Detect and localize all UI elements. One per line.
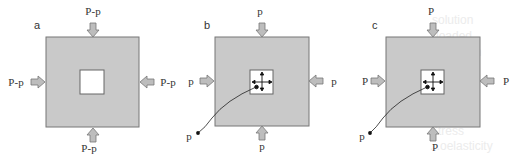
- left-load-label: P: [362, 75, 368, 87]
- lead-dot: [368, 131, 372, 135]
- top-load-label: P-p: [85, 5, 101, 17]
- panel-label: c: [372, 19, 378, 31]
- right-load-label: p: [331, 75, 337, 87]
- right-arrow-icon: [140, 76, 154, 88]
- right-arrow-icon: [480, 75, 494, 87]
- top-arrow-icon: [87, 23, 99, 37]
- top-arrow-icon: [256, 23, 268, 37]
- right-load-label: P: [503, 75, 509, 87]
- right-arrow-icon: [309, 75, 323, 87]
- panel-c: c p P P P P: [359, 5, 509, 153]
- diagram-canvas: solution loaded interconn pressure Stres…: [0, 0, 516, 159]
- left-arrow-icon: [31, 76, 45, 88]
- left-load-label: P-p: [8, 76, 24, 88]
- bottom-arrow-icon: [256, 126, 268, 140]
- bottom-arrow-icon: [87, 128, 99, 142]
- panel-label: b: [204, 19, 210, 31]
- pore-hole: [80, 70, 104, 94]
- bottom-load-label: p: [259, 140, 265, 152]
- right-load-label: P-p: [160, 76, 176, 88]
- top-load-label: P: [428, 5, 434, 17]
- svg-text:solution: solution: [432, 13, 473, 27]
- left-load-label: p: [188, 75, 194, 87]
- panel-b: b p p p p p: [186, 5, 337, 152]
- lead-dot: [196, 131, 200, 135]
- lead-label: p: [359, 130, 365, 142]
- panel-label: a: [34, 19, 41, 31]
- bottom-load-label: P: [432, 141, 438, 153]
- lead-label: p: [186, 130, 192, 142]
- bottom-load-label: P-p: [81, 142, 97, 154]
- svg-text:...oelasticity: ...oelasticity: [430, 139, 493, 153]
- top-load-label: p: [257, 5, 263, 17]
- panel-a: a P-p P-p P-p P-p: [8, 5, 176, 154]
- left-arrow-icon: [200, 75, 214, 87]
- left-arrow-icon: [371, 75, 385, 87]
